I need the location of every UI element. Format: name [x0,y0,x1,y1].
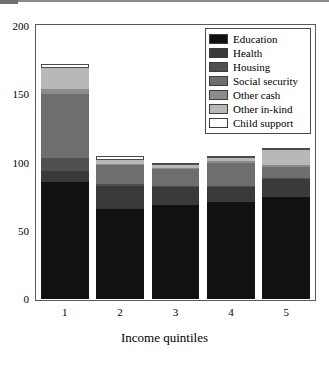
legend-item: Social security [209,74,306,88]
x-axis: 12345 [37,303,314,323]
top-divider [0,0,329,2]
legend-item-label: Education [233,33,278,45]
bar-segment [41,158,89,170]
bar-segment [207,187,255,202]
legend-item: Other cash [209,88,306,102]
bar-segment [262,179,310,197]
bar-segment [41,171,89,182]
bar-segment [207,163,255,186]
legend-item: Housing [209,60,306,74]
bar-segment [207,202,255,299]
legend-swatch-icon [209,104,228,114]
y-axis: 050100150200 [0,24,33,301]
bar-segment [262,167,310,178]
bar-stack [96,156,144,299]
y-tick-label: 50 [18,225,29,236]
bar-stack [152,163,200,300]
bar-segment [152,169,200,185]
legend-swatch-icon [209,34,228,44]
top-corner-marker [0,0,18,4]
bar-segment [96,209,144,299]
x-tick-label: 2 [117,307,123,318]
bar-segment [262,197,310,299]
y-tick-label: 100 [13,157,30,168]
y-tick-label: 0 [24,294,30,305]
bar-stack [262,148,310,300]
legend-item-label: Social security [233,75,298,87]
legend-item-label: Housing [233,61,270,73]
legend-swatch-icon [209,90,228,100]
legend-swatch-icon [209,118,228,128]
legend-item-label: Health [233,47,262,59]
chart-figure: 050100150200 12345 Income quintiles Educ… [0,0,329,367]
x-tick-label: 3 [173,307,179,318]
bar-segment [96,186,144,209]
bar-segment [41,182,89,299]
x-tick-label: 1 [62,307,68,318]
legend-swatch-icon [209,62,228,72]
bar-stack [207,156,255,299]
legend-item-label: Other cash [233,89,280,101]
bar-segment [41,94,89,158]
legend-item-label: Other in-kind [233,103,293,115]
y-tick-label: 200 [13,21,30,32]
legend-swatch-icon [209,48,228,58]
bar-segment [262,150,310,165]
x-tick-label: 4 [228,307,234,318]
legend-item: Health [209,46,306,60]
legend-item: Education [209,32,306,46]
bar-segment [152,187,200,205]
legend-swatch-icon [209,76,228,86]
bar-segment [152,205,200,299]
bar-segment [41,68,89,88]
bar-stack [41,64,89,299]
y-tick-label: 150 [13,89,30,100]
x-tick-label: 5 [284,307,290,318]
legend-item: Child support [209,116,306,130]
bar-segment [96,165,144,184]
legend: EducationHealthHousingSocial securityOth… [205,28,311,134]
x-axis-title: Income quintiles [0,330,329,345]
legend-item: Other in-kind [209,102,306,116]
legend-item-label: Child support [233,117,293,129]
